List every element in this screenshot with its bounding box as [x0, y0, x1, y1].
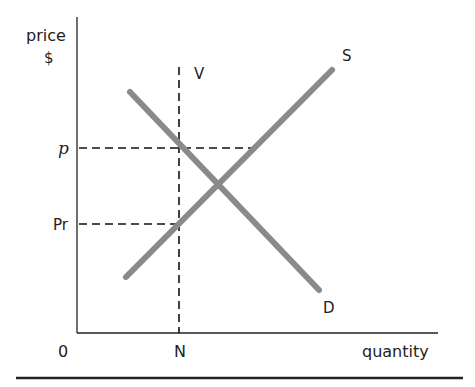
supply-curve [126, 70, 332, 277]
demand-label: D [323, 299, 335, 317]
supply-label: S [342, 47, 352, 65]
origin-label: 0 [58, 342, 68, 361]
vertical-line-label: V [194, 65, 205, 83]
price-label-pr: Pr [53, 216, 69, 234]
supply-demand-diagram: price $ p Pr 0 N quantity V S D [0, 0, 475, 387]
quantity-label-n: N [174, 342, 186, 361]
y-axis-label: price [26, 26, 66, 45]
x-axis-label: quantity [362, 342, 429, 361]
price-label-p: p [58, 138, 69, 158]
demand-curve [130, 92, 319, 290]
y-axis-unit: $ [44, 49, 54, 67]
